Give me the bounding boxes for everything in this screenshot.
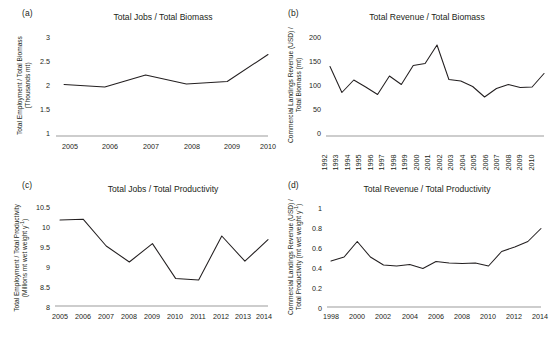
panel-b-y-axis-label-line1: Commercial Landings Revenue (USD) / (287, 18, 295, 152)
panel-d-ytick-4: 0.2 (300, 284, 322, 293)
panel-b-data-line (330, 45, 544, 97)
panel-c-ytick-4: 8.5 (25, 283, 50, 292)
panel-a-xtick-1: 2006 (96, 142, 124, 151)
panel-c-plot-area (55, 206, 268, 311)
panel-d-ytick-2: 0.6 (300, 244, 322, 253)
panel-b-xtick-9: 2001 (423, 150, 432, 176)
panel-d-xtick-1: 2000 (343, 312, 371, 321)
panel-c-ytick-1: 10 (25, 223, 50, 232)
panel-d-data-line (331, 229, 541, 269)
panel-d-xtick-7: 2012 (500, 312, 528, 321)
panel-b-xtick-14: 2006 (481, 150, 490, 176)
panel-a-xtick-3: 2008 (178, 142, 206, 151)
panel-a-data-line (64, 55, 268, 88)
panel-c-letter: (c) (22, 180, 32, 190)
panel-b-ytick-4: 0 (297, 129, 321, 138)
panel-b-plot-area (326, 36, 544, 141)
panel-a-xtick-2: 2007 (137, 142, 165, 151)
panel-c-ytick-5: 8 (25, 303, 50, 312)
panel-a-ytick-3: 1.5 (28, 105, 50, 114)
panel-d-xtick-6: 2010 (474, 312, 502, 321)
panel-c-ytick-0: 10.5 (25, 203, 50, 212)
panel-c-data-line (60, 219, 268, 280)
panel-c-y-axis-label-line1: Total Employment / Total Productivity (13, 193, 21, 323)
panel-b-xtick-5: 1997 (377, 150, 386, 176)
panel-d-y-axis-label-sup: -1 (292, 206, 298, 211)
panel-d-ytick-0: 1 (300, 204, 322, 213)
panel-a-ytick-4: 1 (28, 129, 50, 138)
panel-d-ytick-1: 0.8 (300, 224, 322, 233)
panel-a-ytick-0: 3 (28, 33, 50, 42)
panel-d-ytick-3: 0.4 (300, 264, 322, 273)
panel-a-plot-area (56, 36, 268, 141)
panel-d-xtick-8: 2014 (526, 312, 554, 321)
panel-b-xtick-4: 1996 (366, 150, 375, 176)
panel-b-xtick-3: 1995 (354, 150, 363, 176)
panel-d-xtick-3: 2004 (396, 312, 424, 321)
panel-b-xtick-10: 2002 (435, 150, 444, 176)
panel-a-title: Total Jobs / Total Biomass (58, 12, 268, 22)
panel-b-xtick-2: 1994 (343, 150, 352, 176)
panel-b-xtick-1: 1993 (331, 150, 340, 176)
panel-b-xtick-17: 2009 (515, 150, 524, 176)
panel-b-xtick-16: 2008 (504, 150, 513, 176)
panel-d-plot-area (327, 207, 541, 312)
panel-a-y-axis-label-line1: Total Employment / Total Biomass (16, 23, 24, 148)
panel-b-xtick-8: 2000 (412, 150, 421, 176)
panel-b-xtick-15: 2007 (492, 150, 501, 176)
panel-b-ytick-3: 50 (297, 105, 321, 114)
panel-a-xtick-4: 2009 (218, 142, 246, 151)
panel-d-xtick-2: 2002 (369, 312, 397, 321)
panel-d-xtick-5: 2008 (448, 312, 476, 321)
panel-a-ytick-1: 2.5 (28, 57, 50, 66)
panel-c-y-axis-label-sup: -1 (18, 221, 24, 226)
panel-b-ytick-2: 100 (297, 81, 321, 90)
panel-b-xtick-6: 1998 (389, 150, 398, 176)
panel-b-letter: (b) (288, 8, 299, 18)
panel-d-title: Total Revenue / Total Productivity (314, 184, 540, 194)
panel-c-y-axis-label-line2-end: ) (21, 219, 28, 221)
panel-c-xtick-9: 2014 (250, 312, 278, 321)
panel-d-xtick-0: 1998 (317, 312, 345, 321)
panel-b-xtick-12: 2004 (458, 150, 467, 176)
panel-b-xtick-18: 2010 (527, 150, 536, 176)
panel-b-xtick-13: 2005 (469, 150, 478, 176)
panel-c-ytick-3: 9 (25, 263, 50, 272)
panel-d-xtick-4: 2006 (422, 312, 450, 321)
panel-b: (b) Total Revenue / Total Biomass Commer… (278, 0, 557, 175)
panel-c: (c) Total Jobs / Total Productivity Tota… (0, 175, 278, 350)
panel-d: (d) Total Revenue / Total Productivity C… (278, 175, 557, 350)
panel-c-ytick-2: 9.5 (25, 243, 50, 252)
panel-a-ytick-2: 2 (28, 81, 50, 90)
panel-b-xtick-11: 2003 (446, 150, 455, 176)
panel-b-ytick-0: 200 (297, 33, 321, 42)
panel-a-letter: (a) (22, 8, 33, 18)
panel-a-xtick-0: 2005 (56, 142, 84, 151)
panel-a: (a) Total Jobs / Total Biomass Total Emp… (0, 0, 278, 175)
panel-b-xtick-7: 1999 (400, 150, 409, 176)
panel-b-xtick-0: 1992 (320, 150, 329, 176)
panel-c-title: Total Jobs / Total Productivity (58, 184, 268, 194)
panel-b-ytick-1: 150 (297, 57, 321, 66)
figure-panel-grid: (a) Total Jobs / Total Biomass Total Emp… (0, 0, 557, 350)
panel-b-title: Total Revenue / Total Biomass (314, 12, 540, 22)
